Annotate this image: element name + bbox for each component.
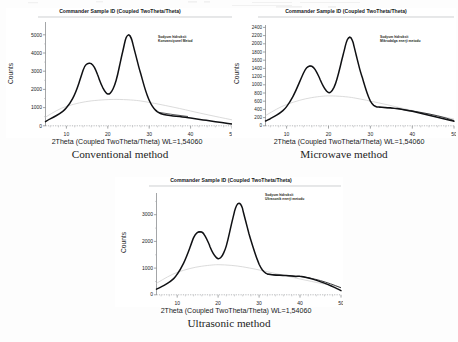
panel-microwave: Commander Sample ID (Coupled TwoTheta/Th… bbox=[232, 8, 456, 138]
plot-area-ultrasonic: 0 1000 2000 3000 bbox=[115, 183, 343, 309]
annotation-line-2: Mikrodalga enerji metodu bbox=[380, 39, 421, 43]
svg-text:50: 50 bbox=[451, 131, 456, 137]
svg-text:600: 600 bbox=[254, 99, 262, 104]
x-axis-title: 2Theta (Coupled TwoTheta/Theta) WL=1,540… bbox=[242, 138, 456, 146]
svg-text:10: 10 bbox=[174, 300, 180, 306]
svg-text:4000: 4000 bbox=[31, 50, 42, 56]
svg-text:30: 30 bbox=[256, 300, 262, 306]
annotation-line-2: Konvansiyonel Metod bbox=[158, 39, 193, 43]
plot-area-conventional: 0 1000 2000 3000 4000 5000 bbox=[6, 14, 234, 140]
panel-annotation: Sodyum hidroksit Ultrasonik enerji metod… bbox=[265, 193, 304, 202]
panel-caption: Ultrasonic method bbox=[115, 317, 343, 329]
svg-text:1000: 1000 bbox=[252, 82, 263, 87]
svg-text:3000: 3000 bbox=[31, 68, 42, 74]
svg-text:0: 0 bbox=[259, 123, 262, 128]
noise-overlay bbox=[308, 37, 455, 120]
svg-text:2400: 2400 bbox=[252, 25, 263, 30]
svg-text:40: 40 bbox=[410, 131, 416, 137]
panel-annotation: Sodyum hidroksit Konvansiyonel Metod bbox=[158, 35, 193, 44]
svg-text:1400: 1400 bbox=[252, 66, 263, 71]
noise-overlay bbox=[88, 35, 189, 117]
svg-text:5000: 5000 bbox=[31, 32, 42, 38]
svg-text:20: 20 bbox=[326, 131, 332, 137]
svg-text:40: 40 bbox=[297, 300, 303, 306]
diffraction-curve bbox=[157, 203, 342, 290]
svg-text:40: 40 bbox=[188, 131, 194, 137]
chart-conventional: Commander Sample ID (Coupled TwoTheta/Th… bbox=[6, 8, 234, 138]
panel-ultrasonic: Commander Sample ID (Coupled TwoTheta/Th… bbox=[115, 177, 343, 307]
diffraction-curve bbox=[46, 35, 233, 124]
svg-text:10: 10 bbox=[64, 131, 70, 137]
svg-text:30: 30 bbox=[146, 131, 152, 137]
diffraction-curve bbox=[266, 37, 455, 121]
svg-text:2000: 2000 bbox=[31, 86, 42, 92]
x-axis-title: 2Theta (Coupled TwoTheta/Theta) WL=1,540… bbox=[129, 307, 343, 315]
svg-text:1800: 1800 bbox=[252, 50, 263, 55]
panel-annotation: Sodyum hidroksit Mikrodalga enerji metod… bbox=[380, 35, 421, 44]
baseline-curve bbox=[266, 96, 455, 119]
panel-caption: Microwave method bbox=[232, 148, 456, 160]
svg-text:1000: 1000 bbox=[142, 265, 153, 271]
svg-text:2200: 2200 bbox=[252, 33, 263, 38]
svg-text:1600: 1600 bbox=[252, 58, 263, 63]
noise-overlay bbox=[198, 204, 342, 288]
svg-text:20: 20 bbox=[215, 300, 221, 306]
svg-text:2000: 2000 bbox=[142, 238, 153, 244]
baseline-curve bbox=[46, 99, 233, 119]
chart-ultrasonic: Commander Sample ID (Coupled TwoTheta/Th… bbox=[115, 177, 343, 307]
panel-conventional: Commander Sample ID (Coupled TwoTheta/Th… bbox=[6, 8, 234, 138]
svg-text:10: 10 bbox=[284, 131, 290, 137]
svg-text:50: 50 bbox=[338, 300, 343, 306]
svg-text:0: 0 bbox=[39, 123, 42, 129]
svg-text:3000: 3000 bbox=[142, 211, 153, 217]
plot-area-microwave: 0 200 400 600 800 1000 1200 1400 1600 18… bbox=[232, 14, 456, 140]
svg-text:2000: 2000 bbox=[252, 41, 263, 46]
annotation-line-2: Ultrasonik enerji metodu bbox=[265, 197, 304, 201]
svg-text:800: 800 bbox=[254, 91, 262, 96]
svg-text:1000: 1000 bbox=[31, 104, 42, 110]
svg-text:200: 200 bbox=[254, 115, 262, 120]
x-axis-title: 2Theta (Coupled TwoTheta/Theta) WL=1,540… bbox=[20, 138, 234, 146]
svg-text:400: 400 bbox=[254, 107, 262, 112]
svg-text:1200: 1200 bbox=[252, 74, 263, 79]
svg-text:20: 20 bbox=[105, 131, 111, 137]
svg-text:0: 0 bbox=[150, 291, 153, 297]
panel-caption: Conventional method bbox=[6, 148, 234, 160]
baseline-curve bbox=[157, 265, 342, 288]
figure-page: Commander Sample ID (Coupled TwoTheta/Th… bbox=[0, 0, 458, 342]
chart-microwave: Commander Sample ID (Coupled TwoTheta/Th… bbox=[232, 8, 456, 138]
svg-text:30: 30 bbox=[368, 131, 374, 137]
